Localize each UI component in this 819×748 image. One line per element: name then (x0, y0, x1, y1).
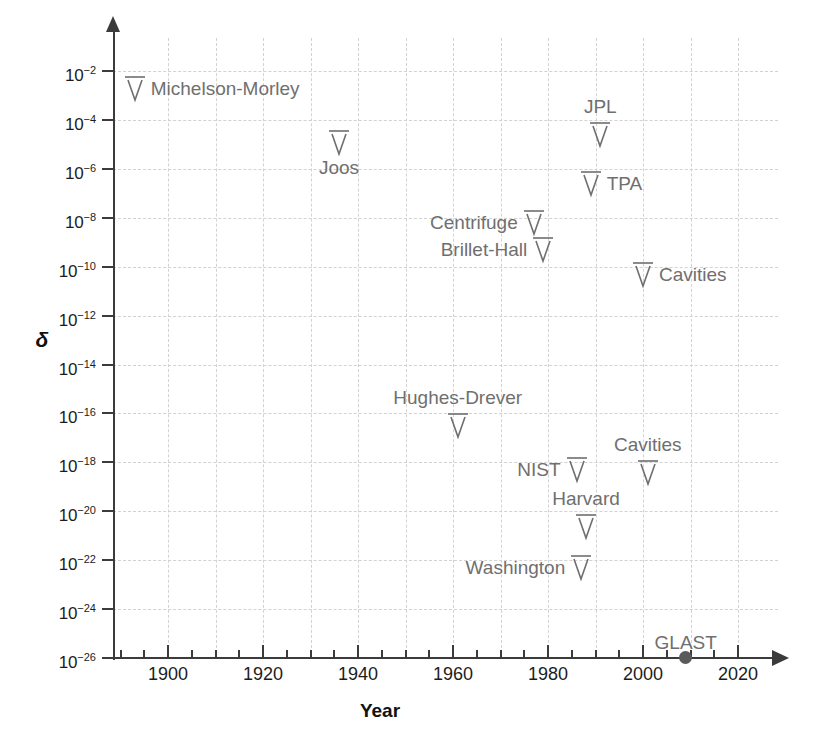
gridline-vertical (358, 38, 359, 658)
x-axis-tick-minor (215, 650, 217, 658)
x-axis-tick-label: 2020 (703, 664, 773, 684)
y-axis-tick (102, 412, 115, 414)
data-point-label: Cavities (614, 434, 682, 455)
y-axis-tick-label: 10−16 (34, 404, 96, 426)
x-axis-tick-major (547, 645, 549, 658)
y-axis-arrowhead (106, 16, 120, 32)
x-axis-tick-minor (523, 650, 525, 658)
plot-area: 10−210−410−610−810−1010−1210−1410−1610−1… (0, 0, 819, 748)
y-axis-tick-label: 10−10 (34, 258, 96, 280)
x-axis-tick-minor (618, 650, 620, 658)
gridline-vertical (168, 38, 169, 658)
y-axis-tick (102, 608, 115, 610)
x-axis-tick-major (642, 645, 644, 658)
y-axis-tick-label: 10−4 (34, 111, 96, 133)
x-axis-tick-label: 1940 (323, 664, 393, 684)
data-point-label: NIST (517, 459, 560, 480)
y-axis-tick-label: 10−18 (34, 453, 96, 475)
x-axis-tick-minor (500, 650, 502, 658)
data-point-label: Joos (319, 157, 359, 178)
y-axis-tick (102, 119, 115, 121)
upper-limit-arrow-icon (635, 458, 661, 488)
x-axis-tick-label: 1980 (513, 664, 583, 684)
upper-limit-arrow-icon (122, 74, 148, 104)
chart-canvas: 10−210−410−610−810−1010−1210−1410−1610−1… (0, 0, 819, 748)
x-axis-tick-label: 1960 (418, 664, 488, 684)
data-point-label: Washington (466, 557, 566, 578)
y-axis-tick-label: 10−2 (34, 62, 96, 84)
data-point-label: Cavities (659, 264, 727, 285)
x-axis-tick-minor (428, 650, 430, 658)
gridline-vertical (453, 38, 454, 658)
gridline-vertical (406, 38, 407, 658)
x-axis-tick-minor (120, 650, 122, 658)
x-axis-line (113, 657, 775, 659)
y-axis-tick (102, 461, 115, 463)
gridline-horizontal (113, 316, 778, 317)
gridline-horizontal (113, 365, 778, 366)
x-axis-tick-major (167, 645, 169, 658)
gridline-horizontal (113, 511, 778, 512)
x-axis-tick-minor (191, 650, 193, 658)
y-axis-tick-label: 10−6 (34, 160, 96, 182)
data-point-label: Centrifuge (430, 212, 518, 233)
data-point-label: Hughes-Drever (393, 387, 522, 408)
x-axis-tick-major (262, 645, 264, 658)
data-point-label: Harvard (552, 488, 620, 509)
upper-limit-arrow-icon (630, 260, 656, 290)
x-axis-tick-minor (238, 650, 240, 658)
x-axis-tick-minor (405, 650, 407, 658)
x-axis-tick-minor (286, 650, 288, 658)
gridline-horizontal (113, 71, 778, 72)
gridline-vertical (691, 38, 692, 658)
x-axis-tick-label: 2000 (608, 664, 678, 684)
gridline-horizontal (113, 120, 778, 121)
gridline-vertical (311, 38, 312, 658)
upper-limit-arrow-icon (573, 512, 599, 542)
y-axis-tick (102, 168, 115, 170)
x-axis-tick-minor (571, 650, 573, 658)
upper-limit-arrow-icon (568, 553, 594, 583)
y-axis-tick (102, 559, 115, 561)
y-axis-tick (102, 217, 115, 219)
gridline-vertical (738, 38, 739, 658)
y-axis-tick-label: 10−22 (34, 551, 96, 573)
x-axis-tick-minor (310, 650, 312, 658)
gridline-vertical (643, 38, 644, 658)
x-axis-arrowhead (772, 650, 789, 666)
y-axis-tick (102, 70, 115, 72)
upper-limit-arrow-icon (445, 411, 471, 441)
y-axis-tick-label: 10−12 (34, 307, 96, 329)
x-axis-tick-label: 1920 (228, 664, 298, 684)
upper-limit-arrow-icon (530, 235, 556, 265)
upper-limit-arrow-icon (521, 208, 547, 238)
y-axis-tick (102, 364, 115, 366)
gridline-horizontal (113, 169, 778, 170)
y-axis-title: δ (22, 328, 62, 352)
upper-limit-arrow-icon (587, 120, 613, 150)
y-axis-tick-label: 10−20 (34, 502, 96, 524)
y-axis-tick (102, 266, 115, 268)
data-point-label: Brillet-Hall (441, 239, 528, 260)
data-point-label: GLAST (655, 632, 717, 653)
x-axis-tick-label: 1900 (133, 664, 203, 684)
gridline-vertical (216, 38, 217, 658)
y-axis-line (113, 30, 115, 660)
y-axis-tick-label: 10−26 (34, 649, 96, 671)
gridline-vertical (263, 38, 264, 658)
x-axis-tick-major (357, 645, 359, 658)
upper-limit-arrow-icon (564, 455, 590, 485)
upper-limit-arrow-icon (578, 169, 604, 199)
data-point-label: Michelson-Morley (151, 78, 300, 99)
x-axis-tick-minor (476, 650, 478, 658)
y-axis-tick (102, 510, 115, 512)
data-point-label: TPA (607, 173, 643, 194)
data-point-label: JPL (584, 96, 617, 117)
gridline-horizontal (113, 609, 778, 610)
gridline-horizontal (113, 560, 778, 561)
y-axis-tick-label: 10−14 (34, 356, 96, 378)
y-axis-tick (102, 315, 115, 317)
y-axis-tick (102, 657, 115, 659)
gridline-horizontal (113, 462, 778, 463)
y-axis-tick-label: 10−24 (34, 600, 96, 622)
